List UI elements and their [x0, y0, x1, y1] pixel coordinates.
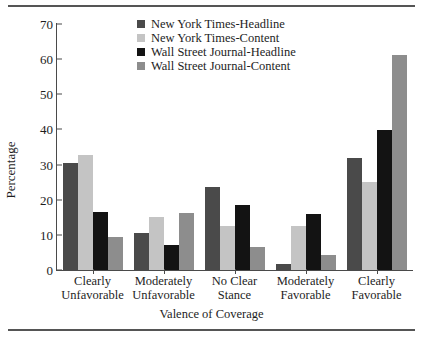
bar[interactable]: [108, 237, 123, 270]
bar[interactable]: [347, 158, 362, 270]
y-axis-tick: 10: [40, 228, 57, 241]
bar[interactable]: [276, 264, 291, 270]
y-axis-tick: 20: [40, 193, 57, 206]
legend-swatch-icon: [137, 62, 145, 70]
bar-group: [57, 24, 128, 270]
x-axis-tick-label: Clearly Favorable: [341, 274, 412, 302]
bar[interactable]: [235, 205, 250, 270]
x-axis-tick-mark: [93, 269, 94, 274]
legend-item-label: Wall Street Journal-Headline: [151, 45, 296, 59]
y-axis-tick-label: 60: [40, 53, 57, 66]
bar-chart-figure: Percentage 010203040506070 Valence of Co…: [0, 0, 423, 339]
y-axis-title: Percentage: [3, 115, 19, 225]
bar[interactable]: [220, 226, 235, 270]
bar[interactable]: [149, 217, 164, 270]
bar[interactable]: [134, 233, 149, 270]
bar-group: [341, 24, 412, 270]
bar[interactable]: [179, 213, 194, 270]
x-axis-tick-label: No Clear Stance: [199, 274, 270, 302]
bar[interactable]: [205, 187, 220, 270]
x-axis-tick-label: Clearly Unfavorable: [57, 274, 128, 302]
bar[interactable]: [362, 182, 377, 270]
x-axis-tick-label: Moderately Favorable: [270, 274, 341, 302]
legend-item-label: Wall Street Journal-Content: [151, 59, 290, 73]
legend-item-label: New York Times-Headline: [151, 17, 285, 31]
y-axis-tick: 0: [47, 264, 58, 277]
x-axis-tick-mark: [306, 269, 307, 274]
x-axis-tick-label: Moderately Unfavorable: [128, 274, 199, 302]
bar[interactable]: [291, 226, 306, 270]
y-axis-tick: 40: [40, 123, 57, 136]
x-axis-tick-mark: [377, 269, 378, 274]
y-axis-tick-label: 20: [40, 193, 57, 206]
legend-item-label: New York Times-Content: [151, 31, 279, 45]
bar[interactable]: [164, 245, 179, 270]
bar[interactable]: [78, 155, 93, 270]
y-axis-tick: 30: [40, 158, 57, 171]
legend-item[interactable]: Wall Street Journal-Headline: [137, 45, 296, 59]
bar[interactable]: [306, 214, 321, 270]
bar[interactable]: [93, 212, 108, 270]
y-axis-tick-label: 40: [40, 123, 57, 136]
legend-item[interactable]: Wall Street Journal-Content: [137, 59, 296, 73]
bottom-divider-rule: [8, 329, 415, 331]
x-axis-tick-mark: [235, 269, 236, 274]
legend-swatch-icon: [137, 20, 145, 28]
top-divider-rule: [8, 5, 415, 7]
y-axis-tick: 60: [40, 53, 57, 66]
bar[interactable]: [63, 163, 78, 270]
y-axis-tick-label: 10: [40, 228, 57, 241]
legend-item[interactable]: New York Times-Content: [137, 31, 296, 45]
bar[interactable]: [321, 255, 336, 270]
bar[interactable]: [250, 247, 265, 270]
y-axis-tick-label: 50: [40, 88, 57, 101]
y-axis-tick-label: 70: [40, 18, 57, 31]
y-axis-tick-label: 0: [47, 264, 58, 277]
legend-swatch-icon: [137, 48, 145, 56]
legend-swatch-icon: [137, 34, 145, 42]
y-axis-tick: 50: [40, 88, 57, 101]
bar[interactable]: [377, 130, 392, 270]
y-axis-tick: 70: [40, 18, 57, 31]
bar[interactable]: [392, 55, 407, 270]
x-axis-tick-mark: [164, 269, 165, 274]
chart-legend: New York Times-HeadlineNew York Times-Co…: [137, 17, 296, 73]
x-axis-title: Valence of Coverage: [0, 307, 423, 322]
y-axis-tick-label: 30: [40, 158, 57, 171]
legend-item[interactable]: New York Times-Headline: [137, 17, 296, 31]
